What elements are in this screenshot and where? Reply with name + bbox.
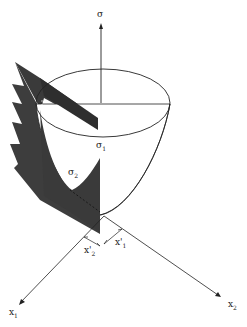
x2-axis-label: x2 — [228, 300, 237, 311]
x1-axis — [20, 216, 104, 303]
x2-prime-label: x'2 — [84, 246, 95, 257]
x1-prime-label: x'1 — [115, 238, 126, 249]
sigma1-label: σ1 — [96, 141, 106, 152]
paraboloid-diagram — [0, 0, 247, 327]
sigma-axis-label: σ — [97, 10, 103, 19]
x2-axis — [104, 216, 218, 295]
x1-axis-label: x1 — [9, 308, 18, 319]
sigma-axis-arrow — [99, 23, 103, 29]
sigma2-label: σ2 — [68, 168, 78, 179]
